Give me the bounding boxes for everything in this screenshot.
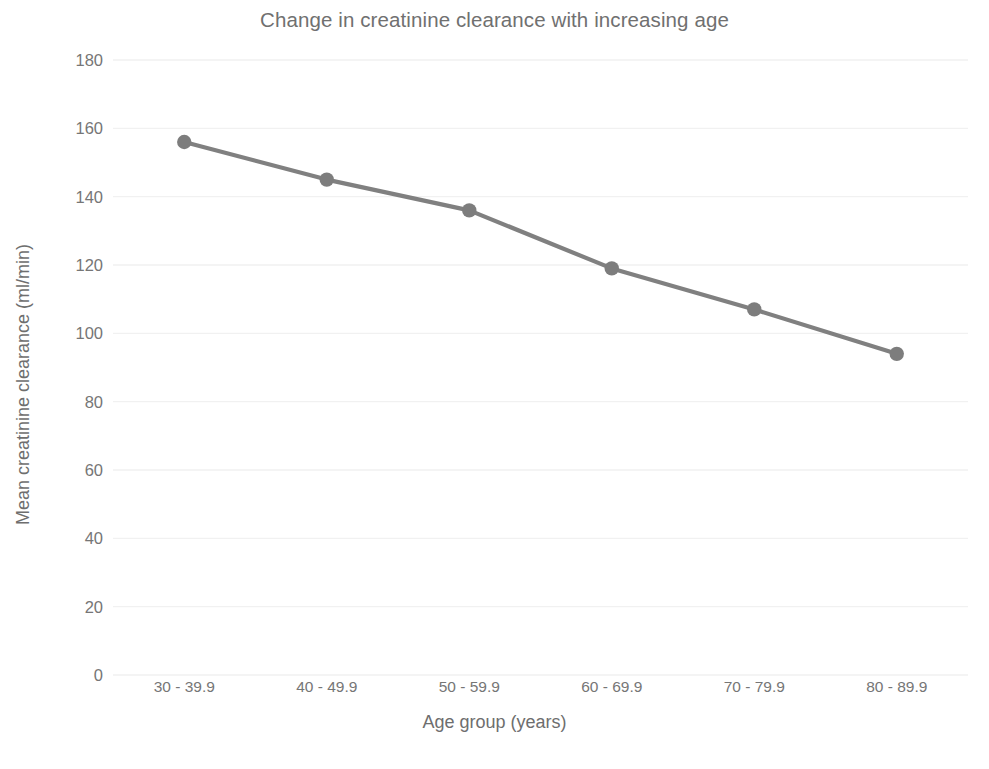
y-axis-tick-label: 120 (75, 256, 103, 275)
x-axis-tick-label: 30 - 39.9 (154, 678, 215, 696)
y-axis-tick-label: 140 (75, 187, 103, 206)
y-axis-tick-label: 20 (85, 597, 103, 616)
chart-container: Change in creatinine clearance with incr… (0, 0, 989, 769)
x-axis-tick-label: 40 - 49.9 (296, 678, 357, 696)
y-axis-tick-labels: 020406080100120140160180 (55, 60, 103, 675)
data-point-marker[interactable]: 70 - 79.9: 107 (747, 302, 761, 316)
data-point-marker[interactable]: 50 - 59.9: 136 (462, 203, 476, 217)
x-axis-tick-labels: 30 - 39.940 - 49.950 - 59.960 - 69.970 -… (113, 678, 968, 702)
y-axis-tick-label: 180 (75, 51, 103, 70)
data-series-line: 30 - 39.9: 15640 - 49.9: 14550 - 59.9: 1… (113, 60, 968, 675)
data-point-marker[interactable]: 60 - 69.9: 119 (605, 261, 619, 275)
x-axis-title: Age group (years) (0, 712, 989, 733)
data-point-marker[interactable]: 30 - 39.9: 156 (177, 135, 191, 149)
y-axis-tick-label: 100 (75, 324, 103, 343)
y-axis-tick-label: 0 (94, 666, 103, 685)
data-point-marker[interactable]: 40 - 49.9: 145 (320, 172, 334, 186)
y-axis-tick-label: 160 (75, 119, 103, 138)
series-line (184, 142, 897, 354)
x-axis-tick-label: 60 - 69.9 (581, 678, 642, 696)
y-axis-tick-label: 80 (85, 392, 103, 411)
y-axis-title: Mean creatinine clearance (ml/min) (10, 0, 38, 769)
x-axis-tick-label: 70 - 79.9 (724, 678, 785, 696)
chart-title: Change in creatinine clearance with incr… (0, 8, 989, 32)
data-point-marker[interactable]: 80 - 89.9: 94 (890, 347, 904, 361)
x-axis-tick-label: 80 - 89.9 (866, 678, 927, 696)
y-axis-tick-label: 40 (85, 529, 103, 548)
plot-area: 30 - 39.9: 15640 - 49.9: 14550 - 59.9: 1… (113, 60, 968, 675)
y-axis-title-text: Mean creatinine clearance (ml/min) (14, 244, 35, 525)
y-axis-tick-label: 60 (85, 461, 103, 480)
x-axis-tick-label: 50 - 59.9 (439, 678, 500, 696)
